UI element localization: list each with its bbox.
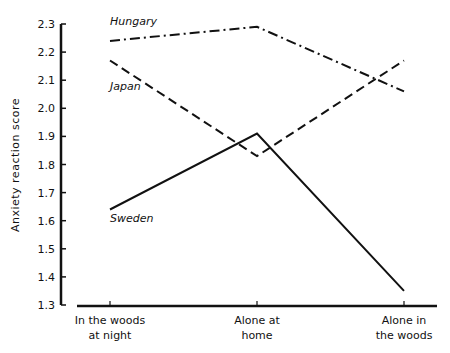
y-tick-label: 2.3 xyxy=(38,18,56,31)
y-tick-label: 2.0 xyxy=(38,102,56,115)
x-category-label: In the woods xyxy=(75,314,146,327)
series-labels: HungaryJapanSweden xyxy=(108,15,157,225)
series-label-hungary: Hungary xyxy=(110,15,157,28)
x-category-label: at night xyxy=(89,329,133,342)
y-axis: 1.31.41.51.61.71.81.92.02.12.22.3 xyxy=(38,18,67,312)
y-tick-label: 1.4 xyxy=(38,271,56,284)
series-hungary-line xyxy=(110,27,404,92)
series-japan-line xyxy=(110,61,404,157)
y-tick-label: 1.9 xyxy=(38,130,56,143)
y-tick-label: 1.8 xyxy=(38,159,56,172)
y-axis-title: Anxiety reaction score xyxy=(9,98,22,232)
series-label-sweden: Sweden xyxy=(110,212,153,225)
y-tick-label: 1.6 xyxy=(38,215,56,228)
series-lines xyxy=(110,27,404,291)
x-category-label: home xyxy=(241,329,272,342)
line-chart: 1.31.41.51.61.71.81.92.02.12.22.3 In the… xyxy=(0,0,450,353)
y-tick-label: 2.1 xyxy=(38,74,56,87)
x-category-label: Alone at xyxy=(234,314,280,327)
y-tick-label: 1.7 xyxy=(38,187,56,200)
x-axis: In the woodsat nightAlone athomeAlone in… xyxy=(75,301,437,342)
y-tick-label: 2.2 xyxy=(38,46,56,59)
x-category-label: Alone in xyxy=(382,314,427,327)
series-label-japan: Japan xyxy=(108,80,141,93)
y-tick-label: 1.5 xyxy=(38,243,56,256)
x-category-label: the woods xyxy=(376,329,433,342)
y-tick-label: 1.3 xyxy=(38,299,56,312)
